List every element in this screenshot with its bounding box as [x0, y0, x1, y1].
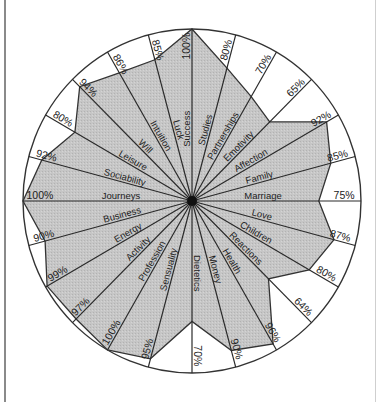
category-label-dietetics: Dietetics: [192, 255, 203, 292]
center-hub: [187, 196, 197, 206]
value-label-marriage: 75%: [334, 189, 355, 201]
value-label-success: 100%: [180, 33, 192, 60]
category-label-marriage: Marriage: [244, 190, 282, 201]
value-label-journeys: 100%: [26, 189, 53, 201]
value-label-dietetics: 70%: [192, 345, 204, 366]
category-label-journeys: Journeys: [102, 190, 141, 201]
radar-chart: SuccessStudiesPartnershipsEmotivityAffec…: [0, 0, 377, 402]
